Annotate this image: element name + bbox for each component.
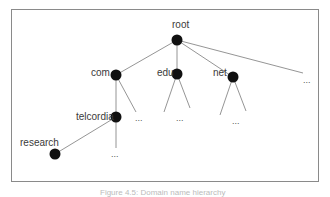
ellipsis-com: ... — [135, 114, 143, 123]
ellipsis-net: ... — [232, 117, 240, 126]
figure-caption: Figure 4.5: Domain name hierarchy — [100, 188, 225, 197]
label-research: research — [20, 138, 59, 148]
tree-edges — [0, 0, 330, 197]
node-research — [50, 149, 61, 160]
node-net — [228, 72, 239, 83]
label-net: net — [213, 68, 227, 78]
node-root — [172, 35, 183, 46]
node-com — [111, 70, 122, 81]
ellipsis-telcordia: ... — [111, 150, 119, 159]
label-com: com — [91, 68, 110, 78]
ellipsis-root: ... — [303, 76, 311, 85]
label-root: root — [172, 20, 189, 30]
ellipsis-edu: ... — [176, 114, 184, 123]
label-telcordia: telcordia — [76, 112, 114, 122]
label-edu: edu — [157, 68, 174, 78]
